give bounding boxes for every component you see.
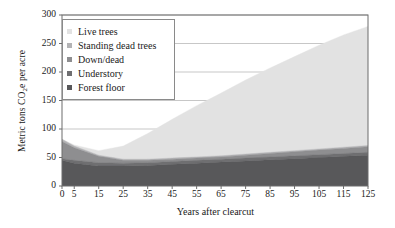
x-tick-label: 125: [355, 189, 381, 199]
x-tick-label: 95: [282, 189, 308, 199]
x-tick-label: 45: [159, 189, 185, 199]
x-tick-label: 25: [110, 189, 136, 199]
x-tick-label: 15: [86, 189, 112, 199]
x-axis-label: Years after clearcut: [62, 206, 369, 217]
legend-item-label: Down/dead: [78, 54, 124, 65]
legend-swatch-icon: [67, 29, 72, 34]
legend-item: Forest floor: [67, 81, 169, 95]
legend-item-label: Forest floor: [78, 82, 125, 93]
x-tick-label: 105: [306, 189, 332, 199]
x-tick-label: 35: [135, 189, 161, 199]
legend-swatch-icon: [67, 57, 72, 62]
legend-item: Live trees: [67, 24, 169, 38]
y-tick-label: 150: [22, 95, 56, 105]
y-axis-label-sub: 2: [21, 88, 29, 92]
legend-item: Understory: [67, 67, 169, 81]
legend-item-label: Standing dead trees: [78, 40, 156, 51]
x-tick-label: 75: [233, 189, 259, 199]
y-tick-label: 50: [22, 152, 56, 162]
legend-swatch-icon: [67, 43, 72, 48]
x-tick-label: 85: [257, 189, 283, 199]
x-tick-label: 65: [208, 189, 234, 199]
legend-swatch-icon: [67, 71, 72, 76]
legend-item: Standing dead trees: [67, 38, 169, 52]
x-tick-label: 55: [184, 189, 210, 199]
y-tick-label: 200: [22, 66, 56, 76]
x-tick-label: 5: [61, 189, 87, 199]
legend-item-label: Live trees: [78, 26, 118, 37]
legend-item: Down/dead: [67, 52, 169, 66]
legend-item-label: Understory: [78, 68, 123, 79]
y-tick-label: 100: [22, 123, 56, 133]
y-tick-label: 300: [22, 9, 56, 19]
chart-figure: Metric tons CO2e per acre Years after cl…: [0, 0, 395, 228]
legend-swatch-icon: [67, 85, 72, 90]
y-tick-label: 250: [22, 38, 56, 48]
chart-legend: Live treesStanding dead treesDown/deadUn…: [62, 19, 175, 100]
x-tick-label: 115: [331, 189, 357, 199]
